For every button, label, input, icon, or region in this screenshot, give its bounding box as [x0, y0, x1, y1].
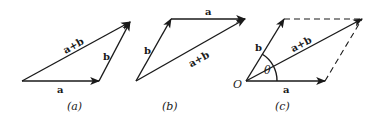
label-a-plus-b: a+b [187, 49, 211, 69]
label-theta: θ [264, 64, 271, 77]
vector-addition-diagram: a b a+b (a) a b a+b (b) θ O a b a+b (c) [0, 0, 379, 117]
label-a: a [205, 6, 212, 17]
label-b: b [103, 51, 110, 62]
vector-a-plus-b [136, 19, 245, 81]
label-a: a [283, 84, 290, 95]
panel-c: θ O a b a+b (c) [233, 19, 362, 113]
label-b: b [144, 45, 151, 56]
label-b: b [255, 42, 262, 53]
panel-a: a b a+b (a) [22, 22, 130, 113]
label-a: a [57, 84, 64, 95]
caption-b: (b) [162, 100, 178, 113]
caption-c: (c) [275, 100, 290, 113]
diagram-canvas: a b a+b (a) a b a+b (b) θ O a b a+b (c) [0, 0, 379, 117]
caption-a: (a) [67, 100, 82, 113]
panel-b: a b a+b (b) [136, 6, 245, 113]
label-origin: O [233, 78, 242, 91]
